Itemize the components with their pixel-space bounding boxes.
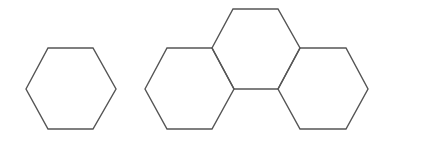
hexagon-diagram (0, 0, 428, 142)
background (0, 0, 428, 142)
